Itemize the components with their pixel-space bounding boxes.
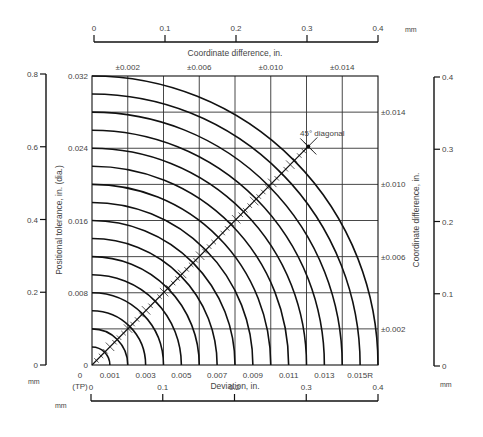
diagonal-45 bbox=[92, 137, 317, 365]
y-tick-label: 0.016 bbox=[68, 217, 89, 226]
y-tick-label: 0.024 bbox=[68, 144, 89, 153]
y-tick-label: 0.032 bbox=[68, 72, 89, 81]
top-tick-label: ±0.006 bbox=[187, 63, 212, 72]
x-tick-label: 0.011 bbox=[279, 371, 299, 380]
x-tick-label: 0.005 bbox=[171, 371, 192, 380]
y-tick-label: 0.008 bbox=[68, 289, 89, 298]
mm-scale-right-tick-label: 0 bbox=[442, 362, 447, 371]
mm-unit-right: mm bbox=[440, 381, 452, 388]
mm-scales: 00.10.20.30.400.10.20.30.400.20.40.60.80… bbox=[27, 24, 454, 401]
mm-scale-left-tick-label: 0.8 bbox=[27, 70, 39, 79]
mm-scale-top-tick-label: 0 bbox=[92, 24, 97, 33]
mm-scale-right-tick-label: 0.4 bbox=[442, 73, 454, 82]
right-tick-label: ±0.002 bbox=[381, 325, 406, 334]
x-tick-label: 0.003 bbox=[136, 371, 157, 380]
mm-scale-bottom-tick-label: 0.1 bbox=[157, 383, 169, 392]
mm-scale-top-tick-label: 0.2 bbox=[230, 24, 242, 33]
mm-unit-bottom: mm bbox=[55, 402, 67, 409]
right-axis-title: Coordinate difference, in. bbox=[411, 173, 421, 268]
positional-tolerance-chart: 00.0010.0030.0050.0070.0090.0110.0130.01… bbox=[0, 0, 483, 437]
axis-labels: 00.0010.0030.0050.0070.0090.0110.0130.01… bbox=[68, 63, 406, 380]
diagonal-label: 45° diagonal bbox=[300, 129, 345, 138]
mm-scale-left-tick-label: 0.2 bbox=[27, 288, 39, 297]
mm-scale-left-tick-label: 0 bbox=[34, 361, 39, 370]
mm-scale-right-tick-label: 0.2 bbox=[442, 218, 454, 227]
top-tick-label: ±0.014 bbox=[330, 63, 355, 72]
mm-scale-left-tick-label: 0.6 bbox=[27, 143, 39, 152]
y-tick-label: 0 bbox=[84, 361, 89, 370]
origin-label: (TP) bbox=[72, 382, 88, 391]
x-tick-label: 0 bbox=[78, 371, 83, 380]
mm-scale-top-tick-label: 0.1 bbox=[159, 24, 171, 33]
top-axis-title: Coordinate difference, in. bbox=[188, 48, 283, 58]
x-tick-label: 0.013 bbox=[314, 371, 335, 380]
mm-unit-left: mm bbox=[28, 378, 40, 385]
mm-scale-left-tick-label: 0.4 bbox=[27, 216, 39, 225]
mm-scale-bottom-tick-label: 0.4 bbox=[372, 383, 384, 392]
chart-canvas: 00.0010.0030.0050.0070.0090.0110.0130.01… bbox=[0, 0, 483, 437]
x-axis-title: Deviation, in. bbox=[210, 381, 259, 391]
x-tick-label: 0.009 bbox=[243, 371, 264, 380]
mm-scale-bottom-tick-label: 0.3 bbox=[301, 383, 313, 392]
mm-scale-top-tick-label: 0.4 bbox=[372, 24, 384, 33]
top-tick-label: ±0.002 bbox=[116, 63, 141, 72]
top-tick-label: ±0.010 bbox=[259, 63, 284, 72]
right-tick-label: ±0.010 bbox=[381, 180, 406, 189]
x-tick-label: 0.001 bbox=[100, 371, 121, 380]
mm-unit-top: mm bbox=[405, 26, 417, 33]
y-axis-title: Positional tolerance, in. (dia.) bbox=[54, 165, 64, 275]
diagonal-end-mark bbox=[303, 137, 317, 151]
mm-scale-right-tick-label: 0.1 bbox=[442, 290, 454, 299]
x-tick-label: 0.007 bbox=[207, 371, 228, 380]
mm-scale-right-tick-label: 0.3 bbox=[442, 145, 454, 154]
diagonal-end-dot bbox=[306, 144, 310, 148]
x-tick-label: 0.015R bbox=[347, 371, 373, 380]
mm-scale-top-tick-label: 0.3 bbox=[301, 24, 313, 33]
right-tick-label: ±0.006 bbox=[381, 253, 406, 262]
mm-scale-bottom-tick-label: 0 bbox=[89, 383, 94, 392]
right-tick-label: ±0.014 bbox=[381, 108, 406, 117]
